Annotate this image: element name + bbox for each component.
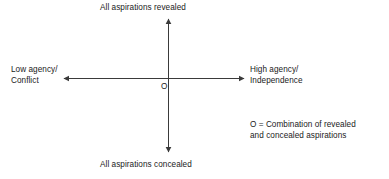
axis-label-top: All aspirations revealed <box>100 2 186 13</box>
legend-line1: O = Combination of revealed <box>250 120 356 129</box>
axis-label-bottom: All aspirations concealed <box>100 159 192 170</box>
axis-label-left-line2: Conflict <box>11 75 58 86</box>
axis-label-right: High agency/ Independence <box>250 64 303 86</box>
axis-label-left-line1: Low agency/ <box>11 65 58 74</box>
legend-line2: and concealed aspirations <box>250 130 356 141</box>
axes-group <box>0 0 389 179</box>
legend: O = Combination of revealed and conceale… <box>250 119 356 141</box>
axis-label-right-line1: High agency/ <box>250 65 298 74</box>
origin-point-label: O <box>161 81 167 92</box>
diagram-canvas: All aspirations revealed All aspirations… <box>0 0 389 179</box>
axis-label-right-line2: Independence <box>250 75 303 86</box>
axis-label-left: Low agency/ Conflict <box>11 64 58 86</box>
